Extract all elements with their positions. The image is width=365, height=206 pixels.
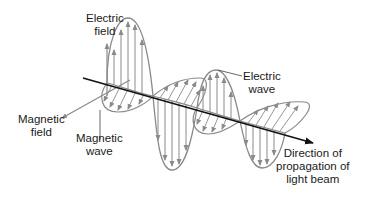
label-propagation: Direction of propagation of light beam (276, 147, 350, 186)
label-magnetic-field: Magnetic field (18, 113, 65, 139)
label-magnetic-wave: Magnetic wave (76, 132, 123, 158)
label-electric-wave: Electric wave (243, 70, 281, 96)
em-wave-diagram: Electric field Electric wave Magnetic fi… (0, 0, 365, 206)
label-electric-field: Electric field (86, 12, 124, 38)
